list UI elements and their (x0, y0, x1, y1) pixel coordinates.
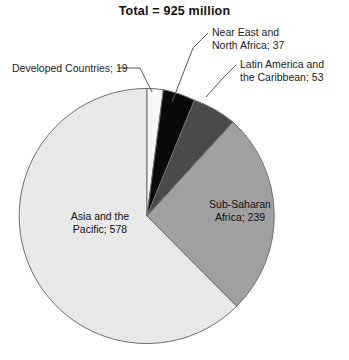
slice-label-sub-saharan-africa: Sub-Saharan Africa; 239 (186, 198, 294, 223)
slice-label-asia-and-the-pacific: Asia and the Pacific; 578 (44, 210, 156, 235)
leader-line-latin-america (206, 65, 236, 97)
callout-latin-america-and-the-caribbean: Latin America and the Caribbean; 53 (240, 58, 324, 83)
callout-developed-countries: Developed Countries; 19 (12, 62, 128, 75)
callout-near-east-and-north-africa: Near East and North Africa; 37 (212, 26, 284, 51)
pie-chart-graphic (0, 0, 349, 360)
leader-line-near-east (172, 33, 208, 102)
pie-chart-figure: Total = 925 million Near East and North … (0, 0, 349, 360)
